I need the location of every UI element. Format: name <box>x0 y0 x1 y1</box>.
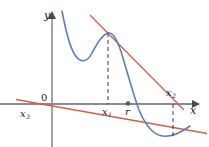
point-label-x3-base: x <box>20 108 26 119</box>
point-label-x1-subscript: 1 <box>108 111 112 118</box>
point-label-x3: x3 <box>20 109 30 119</box>
x-axis-label: x <box>190 105 196 116</box>
function-curve <box>62 11 190 136</box>
newton-method-figure: y x 0 x1 x2 x3 r <box>0 0 209 147</box>
origin-label: 0 <box>41 93 47 103</box>
point-label-x2: x2 <box>166 88 176 98</box>
point-label-x3-subscript: 3 <box>26 113 30 120</box>
point-label-x1: x1 <box>102 107 112 117</box>
x-axis <box>0 100 200 108</box>
y-axis <box>48 11 56 147</box>
point-label-x1-base: x <box>102 106 108 117</box>
point-label-x2-base: x <box>166 87 172 98</box>
figure-canvas <box>0 0 209 147</box>
y-axis-label: y <box>44 10 50 21</box>
point-label-r: r <box>125 107 130 117</box>
point-label-x2-subscript: 2 <box>172 92 176 99</box>
